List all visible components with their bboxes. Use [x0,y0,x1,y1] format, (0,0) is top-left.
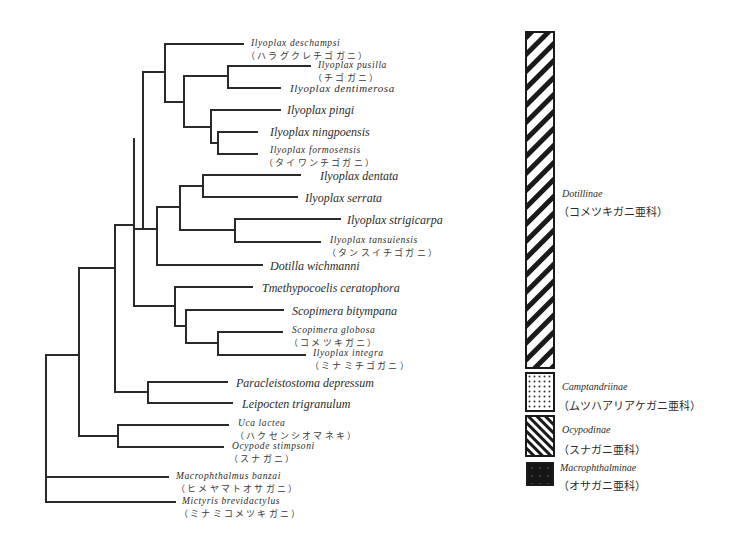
legend-label-dotillinae: Dotillinae [562,188,603,199]
taxon-label: Ilyoplax serrata [305,192,382,204]
taxon-label: Macrophthalmus banzai [176,472,281,482]
taxon-label: Ilyoplax dentimerosa [290,83,395,94]
taxon-jp-label: （タンスイチゴガニ） [327,249,439,258]
legend-swatch-macrophthalminae [526,462,554,486]
taxon-jp-label: （コメツキガニ） [289,339,379,348]
legend-label-macrophthalminae: Macrophthalminae [560,462,636,473]
legend-swatch-ocypodinae [525,415,555,457]
taxon-label: Ilyoplax strigicarpa [347,214,443,226]
legend-jp-camptandriinae: （ムツハアリアケガニ亜科） [558,397,701,413]
taxon-label: Ilyoplax integra [313,349,384,359]
taxon-label: Paracleistostoma depressum [236,377,374,389]
taxon-label: Ocypode stimpsoni [232,442,315,452]
taxon-jp-label: （ハクセンシオマネキ） [235,432,358,441]
legend-jp-ocypodinae: （スナガニ亜科） [558,441,646,457]
taxon-jp-label: （ヒメヤマトオサガニ） [176,485,299,494]
taxon-jp-label: （タイワンチゴガニ） [264,159,376,168]
legend-swatch-camptandriinae [525,372,555,412]
taxon-label: Uca lactea [238,419,285,429]
taxon-jp-label: （ミナミチゴガニ） [310,362,411,371]
taxon-label: Dotilla wichmanni [270,260,360,272]
legend-jp-dotillinae: （コメツキガニ亜科） [558,203,668,219]
taxon-label: Tmethypocoelis ceratophora [262,282,400,294]
legend-label-camptandriinae: Camptandriinae [562,381,628,392]
taxon-label: Ilyoplax pusilla [318,61,387,71]
legend-jp-macrophthalminae: （オサガニ亜科） [558,477,646,493]
taxon-label: Leipocten trigranulum [242,398,350,410]
taxon-label: Ilyoplax ningpoensis [270,126,370,138]
taxon-label: Scopimera bitympana [292,305,397,317]
taxon-label: Scopimera globosa [292,326,375,336]
taxon-label: Ilyoplax pingi [287,104,354,116]
taxon-label: Ilyoplax formosensis [270,146,361,156]
taxon-jp-label: （スナガニ） [229,455,296,464]
taxon-label: Mictyris brevidactylus [182,497,280,507]
taxon-label: Ilyoplax tansuiensis [330,236,418,246]
legend-swatch-dotillinae [525,31,555,369]
taxon-jp-label: （ミナミコメツキガニ） [179,510,302,519]
legend-label-ocypodinae: Ocypodinae [562,424,610,435]
taxon-label: Ilyoplax deschampsi [251,39,340,49]
taxon-label: Ilyoplax dentata [320,170,398,182]
